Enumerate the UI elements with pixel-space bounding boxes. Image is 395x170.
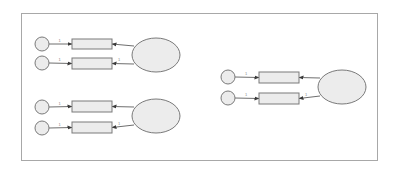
error-path-label: 1: [59, 38, 62, 43]
error-path-label: 1: [245, 71, 248, 76]
group-right: 111: [221, 70, 366, 105]
error-path-arrow: [235, 98, 259, 99]
group-top-left: 111: [35, 37, 180, 72]
groups-layer: 111111111: [35, 37, 366, 135]
factor-loading-arrow: [299, 78, 320, 79]
error-path-arrow: [49, 107, 72, 108]
error-term-circle[interactable]: [35, 100, 49, 114]
factor-loading-arrow: [112, 44, 134, 46]
error-path-arrow: [235, 77, 259, 78]
error-path-arrow: [49, 63, 72, 64]
factor-loading-label: 1: [118, 57, 121, 62]
factor-loading-arrow: [112, 64, 134, 65]
group-bottom-left: 111: [35, 99, 180, 135]
error-term-circle[interactable]: [35, 56, 49, 70]
error-term-circle[interactable]: [221, 70, 235, 84]
error-path-label: 1: [59, 57, 62, 62]
factor-loading-arrow: [112, 125, 134, 128]
observed-variable-box[interactable]: [259, 93, 299, 104]
observed-variable-box[interactable]: [72, 122, 112, 133]
observed-variable-box[interactable]: [72, 58, 112, 69]
error-path-arrow: [49, 128, 72, 129]
path-diagram: 111111111: [0, 0, 395, 170]
latent-variable-ellipse[interactable]: [132, 38, 180, 72]
latent-variable-ellipse[interactable]: [132, 99, 180, 133]
latent-variable-ellipse[interactable]: [318, 70, 366, 104]
factor-loading-label: 1: [305, 92, 308, 97]
error-term-circle[interactable]: [221, 91, 235, 105]
observed-variable-box[interactable]: [72, 39, 112, 49]
observed-variable-box[interactable]: [72, 101, 112, 112]
factor-loading-label: 1: [118, 121, 121, 126]
error-term-circle[interactable]: [35, 121, 49, 135]
error-term-circle[interactable]: [35, 37, 49, 51]
observed-variable-box[interactable]: [259, 72, 299, 83]
factor-loading-arrow: [112, 107, 134, 108]
error-path-label: 1: [59, 122, 62, 127]
error-path-label: 1: [59, 101, 62, 106]
error-path-label: 1: [245, 92, 248, 97]
factor-loading-arrow: [299, 96, 320, 99]
